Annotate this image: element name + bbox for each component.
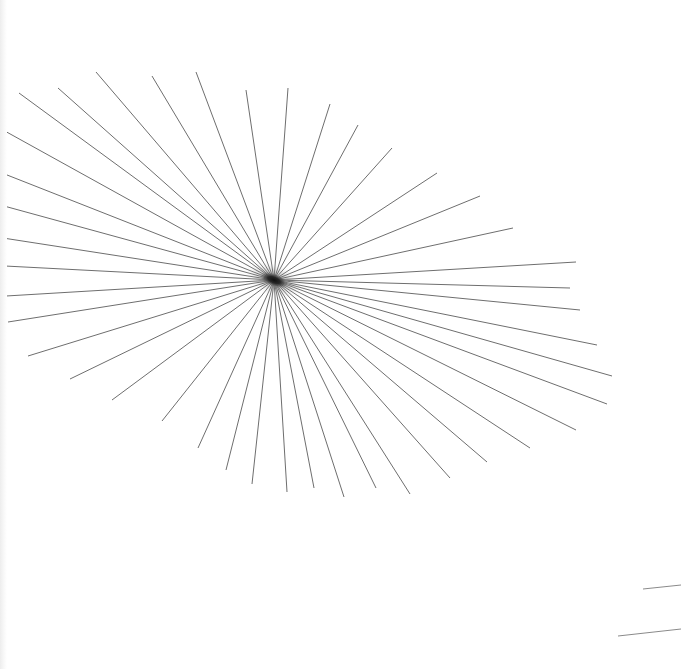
image-canvas [0,0,681,669]
background-plate [0,0,681,669]
starburst-artwork [0,0,681,669]
